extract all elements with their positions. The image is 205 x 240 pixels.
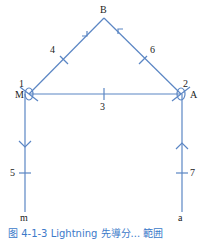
segment-label-5: 5 bbox=[10, 168, 15, 178]
tick-4 bbox=[60, 56, 68, 64]
edge-4 bbox=[29, 18, 104, 94]
terminal-label-m: m bbox=[20, 213, 28, 223]
circuit-diagram bbox=[0, 0, 205, 240]
edge-6 bbox=[104, 18, 181, 94]
segment-label-4: 4 bbox=[50, 45, 55, 55]
segment-label-6: 6 bbox=[150, 45, 155, 55]
node-label-b: B bbox=[100, 5, 107, 15]
node-number-1: 1 bbox=[19, 79, 24, 89]
node-label-m: M bbox=[15, 90, 24, 100]
figure-caption: 图 4-1-3 Lightning 先導分... 範囲 bbox=[8, 229, 163, 239]
segment-label-3: 3 bbox=[100, 102, 105, 112]
segment-label-7: 7 bbox=[190, 168, 195, 178]
terminal-label-a: a bbox=[178, 213, 182, 223]
node-number-2: 2 bbox=[183, 79, 188, 89]
node-label-a: A bbox=[190, 90, 197, 100]
